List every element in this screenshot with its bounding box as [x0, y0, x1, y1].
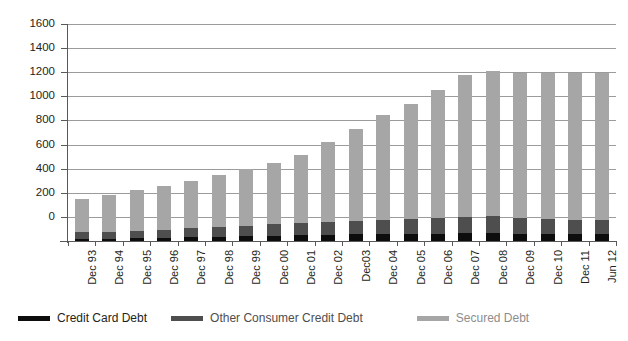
x-axis-label: Dec 98: [224, 250, 235, 285]
x-axis-tick: [369, 241, 370, 246]
x-axis-label: Dec 08: [498, 250, 509, 285]
legend-label: Secured Debt: [456, 312, 529, 324]
bar-stack[interactable]: [486, 71, 500, 241]
bar-segment: [541, 73, 555, 218]
bar-stack[interactable]: [595, 73, 609, 241]
gridline: [68, 145, 616, 146]
bar-stack[interactable]: [376, 115, 390, 241]
x-axis-tick: [260, 241, 261, 246]
bar-stack[interactable]: [404, 104, 418, 241]
bar-segment: [212, 175, 226, 227]
bar-segment: [321, 142, 335, 222]
x-axis-tick: [479, 241, 480, 246]
y-axis-label: 1000: [29, 90, 55, 102]
x-axis-tick: [397, 241, 398, 246]
bar-segment: [157, 230, 171, 238]
bar-stack[interactable]: [541, 73, 555, 241]
bar-segment: [376, 115, 390, 220]
bar-segment: [294, 155, 308, 223]
x-axis-tick: [506, 241, 507, 246]
bar-segment: [568, 73, 582, 219]
bar-stack[interactable]: [239, 169, 253, 241]
x-axis-label: Dec 02: [333, 250, 344, 285]
x-axis-tick: [150, 241, 151, 246]
x-axis-label: Dec 01: [306, 250, 317, 285]
bar-stack[interactable]: [513, 73, 527, 241]
gridline: [68, 48, 616, 49]
bar-segment: [541, 219, 555, 234]
bar-stack[interactable]: [212, 175, 226, 241]
x-axis-label: Dec 00: [279, 250, 290, 285]
bar-stack[interactable]: [184, 181, 198, 241]
x-axis-tick: [95, 241, 96, 246]
bar-segment: [595, 220, 609, 234]
bar-segment: [458, 233, 472, 241]
x-axis-tick: [616, 241, 617, 246]
x-axis-tick: [232, 241, 233, 246]
legend-item[interactable]: Credit Card Debt: [18, 312, 147, 324]
bar-segment: [157, 186, 171, 230]
bar-segment: [513, 234, 527, 241]
bar-stack[interactable]: [349, 129, 363, 241]
bar-stack[interactable]: [568, 73, 582, 241]
bar-stack[interactable]: [75, 199, 89, 241]
x-axis-label: Dec 99: [251, 250, 262, 285]
bar-segment: [458, 217, 472, 234]
bar-segment: [75, 199, 89, 232]
bar-segment: [431, 218, 445, 234]
bar-stack[interactable]: [130, 190, 144, 241]
bar-segment: [376, 220, 390, 234]
gridline: [68, 72, 616, 73]
legend-item[interactable]: Secured Debt: [417, 312, 529, 324]
bar-segment: [458, 75, 472, 217]
bar-stack[interactable]: [431, 90, 445, 241]
x-axis-label: Dec 07: [470, 250, 481, 285]
bar-segment: [404, 219, 418, 234]
legend-item[interactable]: Other Consumer Credit Debt: [171, 312, 363, 324]
x-axis-tick: [123, 241, 124, 246]
chart-container: 16001400120010008006004002000 Dec 93Dec …: [0, 0, 628, 341]
x-axis-label: Dec 97: [196, 250, 207, 285]
bar-segment: [376, 234, 390, 241]
bar-segment: [184, 181, 198, 229]
bar-segment: [239, 226, 253, 237]
chart-legend: Credit Card DebtOther Consumer Credit De…: [18, 312, 529, 324]
x-axis-label: Jun 12: [607, 250, 618, 283]
bar-stack[interactable]: [157, 186, 171, 241]
y-axis-label: 600: [36, 139, 55, 151]
y-axis-label: 0: [49, 211, 55, 223]
x-axis-label: Dec 96: [169, 250, 180, 285]
bar-segment: [130, 190, 144, 230]
bar-segment: [267, 224, 281, 235]
bar-segment: [349, 221, 363, 235]
bar-stack[interactable]: [102, 195, 116, 241]
bar-segment: [102, 195, 116, 231]
bar-segment: [513, 73, 527, 217]
plot-area: [68, 24, 616, 241]
bar-segment: [239, 169, 253, 226]
gridline: [68, 193, 616, 194]
x-axis-tick: [287, 241, 288, 246]
legend-swatch: [18, 316, 50, 321]
x-axis-tick: [205, 241, 206, 246]
y-axis-label: 400: [36, 163, 55, 175]
x-axis-tick: [342, 241, 343, 246]
bar-segment: [404, 234, 418, 241]
bar-stack[interactable]: [267, 163, 281, 241]
bar-segment: [102, 232, 116, 239]
bar-segment: [595, 73, 609, 220]
gridline: [68, 96, 616, 97]
bar-segment: [130, 231, 144, 238]
x-axis-label: Dec 06: [443, 250, 454, 285]
x-axis-tick: [315, 241, 316, 246]
x-axis-tick: [68, 241, 69, 246]
bar-stack[interactable]: [321, 142, 335, 241]
bar-segment: [486, 71, 500, 216]
x-axis-tick: [561, 241, 562, 246]
bar-stack[interactable]: [458, 75, 472, 241]
x-axis-line: [60, 241, 616, 242]
bar-segment: [267, 163, 281, 225]
bar-stack[interactable]: [294, 155, 308, 241]
bar-segment: [349, 234, 363, 241]
y-axis-label: 1400: [29, 42, 55, 54]
